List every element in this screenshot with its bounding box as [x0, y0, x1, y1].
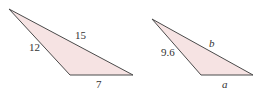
triangle-2-side-left-label: 9.6 [161, 46, 175, 58]
triangles-figure: 12 15 7 9.6 b a [0, 0, 264, 93]
triangle-1-side-left-label: 12 [29, 41, 40, 53]
triangle-2-side-top-label: b [209, 37, 215, 49]
triangle-2: 9.6 b a [152, 19, 253, 90]
triangle-2-side-bottom-label: a [222, 78, 228, 90]
triangle-1-shape [9, 9, 133, 75]
triangle-1-side-bottom-label: 7 [96, 78, 102, 90]
triangle-1-side-top-label: 15 [75, 29, 87, 41]
triangle-1: 12 15 7 [9, 9, 133, 90]
diagram-canvas: 12 15 7 9.6 b a [0, 0, 264, 93]
